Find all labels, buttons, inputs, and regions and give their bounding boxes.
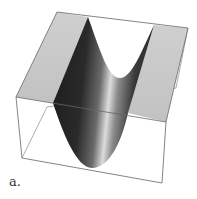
figure-label: a. <box>9 174 21 189</box>
surface-plot-3d <box>0 0 197 199</box>
